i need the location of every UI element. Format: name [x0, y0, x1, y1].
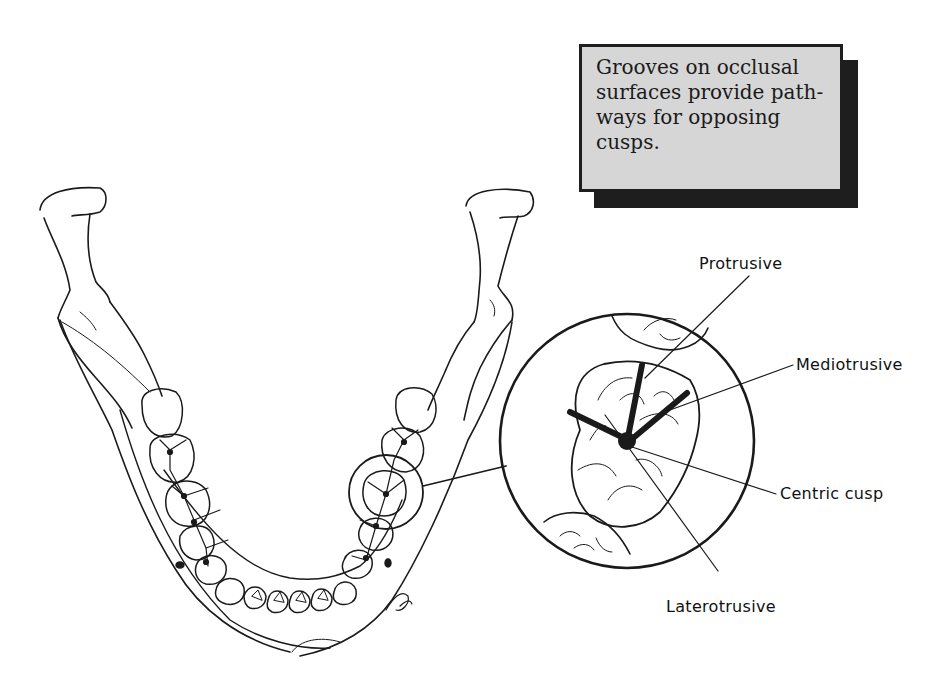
label-protrusive: Protrusive [699, 254, 782, 273]
callout-line-1: Grooves on occlusal [596, 55, 836, 80]
magnified-tooth-detail [500, 276, 793, 571]
callout-text: Grooves on occlusal surfaces provide pat… [596, 55, 836, 155]
callout-line-2: surfaces provide path- [596, 80, 836, 105]
label-centric-cusp: Centric cusp [780, 484, 883, 503]
right-ramus [300, 189, 533, 656]
right-groove-arrows [352, 428, 418, 561]
left-posterior-teeth [142, 389, 226, 584]
right-posterior-teeth [342, 388, 436, 579]
callout-box: Grooves on occlusal surfaces provide pat… [579, 44, 843, 192]
callout-line-3: ways for opposing [596, 105, 836, 130]
label-mediotrusive: Mediotrusive [796, 355, 903, 374]
anterior-teeth [215, 578, 356, 612]
callout-line-4: cusps. [596, 130, 836, 155]
label-laterotrusive: Laterotrusive [666, 597, 776, 616]
magnify-connector [423, 466, 506, 486]
left-ramus [40, 188, 290, 652]
